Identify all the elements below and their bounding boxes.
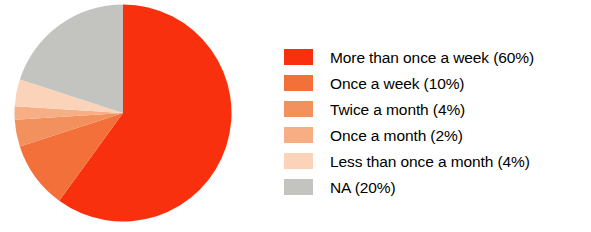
legend-swatch-more-than-once-a-week	[284, 49, 313, 65]
pie-chart-graphic	[14, 4, 232, 222]
legend-label-twice-a-month: Twice a month (4%)	[330, 101, 465, 118]
legend-item-less-than-once-a-month: Less than once a month (4%)	[284, 148, 584, 174]
chart-legend: More than once a week (60%)Once a week (…	[284, 44, 584, 200]
legend-swatch-less-than-once-a-month	[284, 153, 313, 169]
legend-item-na: NA (20%)	[284, 174, 584, 200]
legend-item-once-a-week: Once a week (10%)	[284, 70, 584, 96]
legend-item-more-than-once-a-week: More than once a week (60%)	[284, 44, 584, 70]
legend-label-once-a-month: Once a month (2%)	[330, 127, 463, 144]
legend-swatch-na	[284, 179, 313, 195]
legend-swatch-once-a-week	[284, 75, 313, 91]
legend-item-once-a-month: Once a month (2%)	[284, 122, 584, 148]
pie-chart-figure: More than once a week (60%)Once a week (…	[0, 0, 591, 232]
legend-label-na: NA (20%)	[330, 179, 396, 196]
legend-swatch-once-a-month	[284, 127, 313, 143]
legend-swatch-twice-a-month	[284, 101, 313, 117]
pie-svg	[14, 4, 232, 222]
pie-slice-group	[14, 5, 231, 222]
legend-label-less-than-once-a-month: Less than once a month (4%)	[330, 153, 530, 170]
legend-label-once-a-week: Once a week (10%)	[330, 75, 464, 92]
legend-label-more-than-once-a-week: More than once a week (60%)	[330, 49, 534, 66]
legend-item-twice-a-month: Twice a month (4%)	[284, 96, 584, 122]
